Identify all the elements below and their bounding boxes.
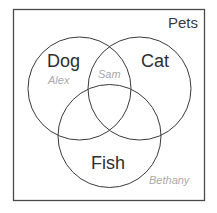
venn-diagram: Pets Dog Cat Fish Alex Sam Bethany [0, 0, 217, 213]
cat-circle [88, 37, 191, 140]
member-bethany: Bethany [149, 174, 191, 186]
universe-label: Pets [168, 14, 198, 31]
cat-label: Cat [141, 51, 169, 71]
dog-label: Dog [47, 51, 80, 71]
member-alex: Alex [47, 74, 70, 86]
fish-label: Fish [91, 153, 125, 173]
member-sam: Sam [98, 68, 121, 80]
